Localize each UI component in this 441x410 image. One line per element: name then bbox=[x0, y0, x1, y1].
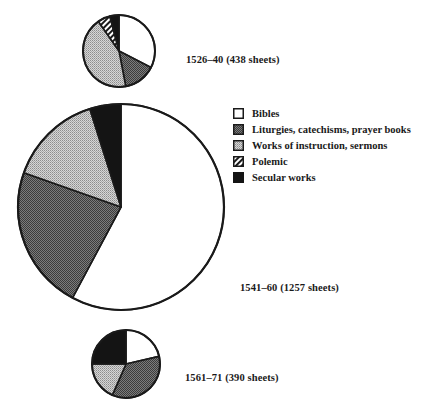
legend-item-bibles: Bibles bbox=[233, 105, 411, 121]
legend-item-works-of-instruction: Works of instruction, sermons bbox=[233, 137, 411, 153]
legend-label: Secular works bbox=[252, 172, 316, 183]
pie-label-1541-60: 1541–60 (1257 sheets) bbox=[240, 282, 339, 293]
dark-stipple-swatch-icon bbox=[233, 124, 244, 135]
legend-item-liturgies: Liturgies, catechisms, prayer books bbox=[233, 121, 411, 137]
legend-label: Polemic bbox=[252, 156, 288, 167]
legend-label: Liturgies, catechisms, prayer books bbox=[252, 124, 411, 135]
legend-label: Bibles bbox=[252, 108, 279, 119]
pie-label-1561-71: 1561–71 (390 sheets) bbox=[185, 372, 279, 383]
legend-item-polemic: Polemic bbox=[233, 153, 411, 169]
legend-label: Works of instruction, sermons bbox=[252, 140, 387, 151]
pie-1561-71 bbox=[92, 330, 160, 398]
pie-1541-60 bbox=[18, 104, 224, 310]
pie-label-1526-40: 1526–40 (438 sheets) bbox=[186, 54, 280, 65]
legend: Bibles Liturgies, catechisms, prayer boo… bbox=[233, 105, 411, 185]
pie-1526-40 bbox=[83, 15, 155, 87]
legend-item-secular-works: Secular works bbox=[233, 169, 411, 185]
white-swatch-icon bbox=[233, 108, 244, 119]
hatch-swatch-icon bbox=[233, 156, 244, 167]
black-swatch-icon bbox=[233, 172, 244, 183]
light-stipple-swatch-icon bbox=[233, 140, 244, 151]
